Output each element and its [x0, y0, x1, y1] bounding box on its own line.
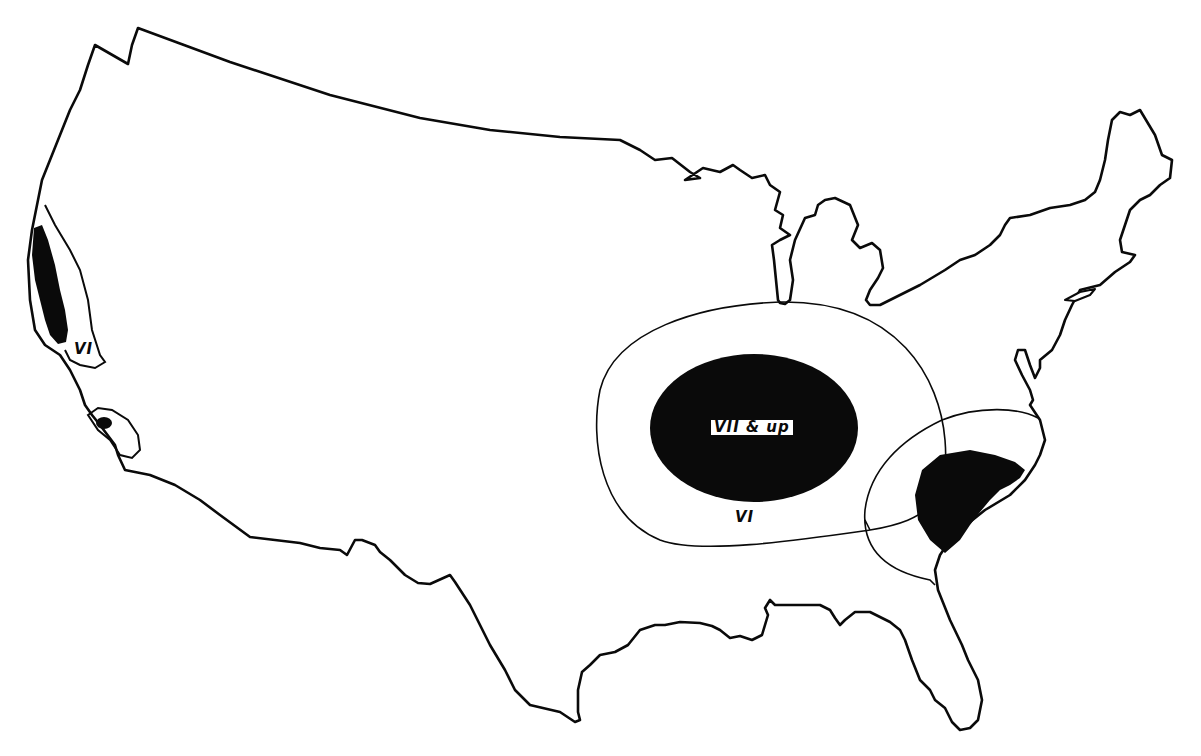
- zone-label-vii-and-up: VII & up: [711, 420, 793, 435]
- us-map: [0, 0, 1201, 756]
- california-south-vii-zone: [96, 417, 112, 429]
- southeast-vii-zone: [915, 450, 1025, 553]
- zone-label-vi-central: VI: [735, 510, 754, 525]
- zone-label-vi-california: VI: [74, 342, 93, 357]
- us-outline: [28, 28, 1172, 730]
